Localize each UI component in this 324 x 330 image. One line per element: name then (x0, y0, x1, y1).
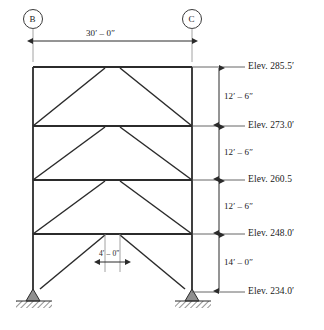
frame-members (33, 67, 192, 292)
elevation-label-level4: Elev. 273.0′ (248, 121, 294, 131)
story-height-3: 12′ – 6″ (224, 148, 253, 157)
elevation-label-level2: Elev. 248.0′ (248, 229, 294, 239)
span-dimension-label: 30′ – 0″ (86, 29, 115, 38)
brace-story4-right (120, 68, 192, 126)
brace-story4-left (33, 68, 105, 126)
brace-story3-left (33, 127, 105, 180)
story-height-4: 12′ – 6″ (224, 92, 253, 101)
brace-gap-dimension-label: 4′ – 0″ (99, 250, 119, 258)
grid-bubble-c-label: C (189, 15, 195, 24)
grid-bubble-b-label: B (30, 15, 36, 24)
frame-elevation-drawing (0, 0, 324, 330)
diagram-canvas: B C 30′ – 0″ 4′ – 0″ Elev. 285.5′ Elev. … (0, 0, 324, 330)
elevation-label-roof: Elev. 285.5′ (248, 62, 294, 72)
brace-story2-left (33, 181, 105, 234)
story-height-2: 12′ – 6″ (224, 202, 253, 211)
brace-story1-right (120, 235, 185, 289)
story-height-1: 14′ – 0″ (224, 258, 253, 267)
brace-story2-right (120, 181, 192, 234)
brace-story1-left (40, 235, 105, 289)
elevation-label-base: Elev. 234.0′ (248, 287, 294, 297)
support-left (16, 289, 52, 308)
brace-story3-right (120, 127, 192, 180)
elevation-label-level3: Elev. 260.5 (248, 175, 292, 185)
